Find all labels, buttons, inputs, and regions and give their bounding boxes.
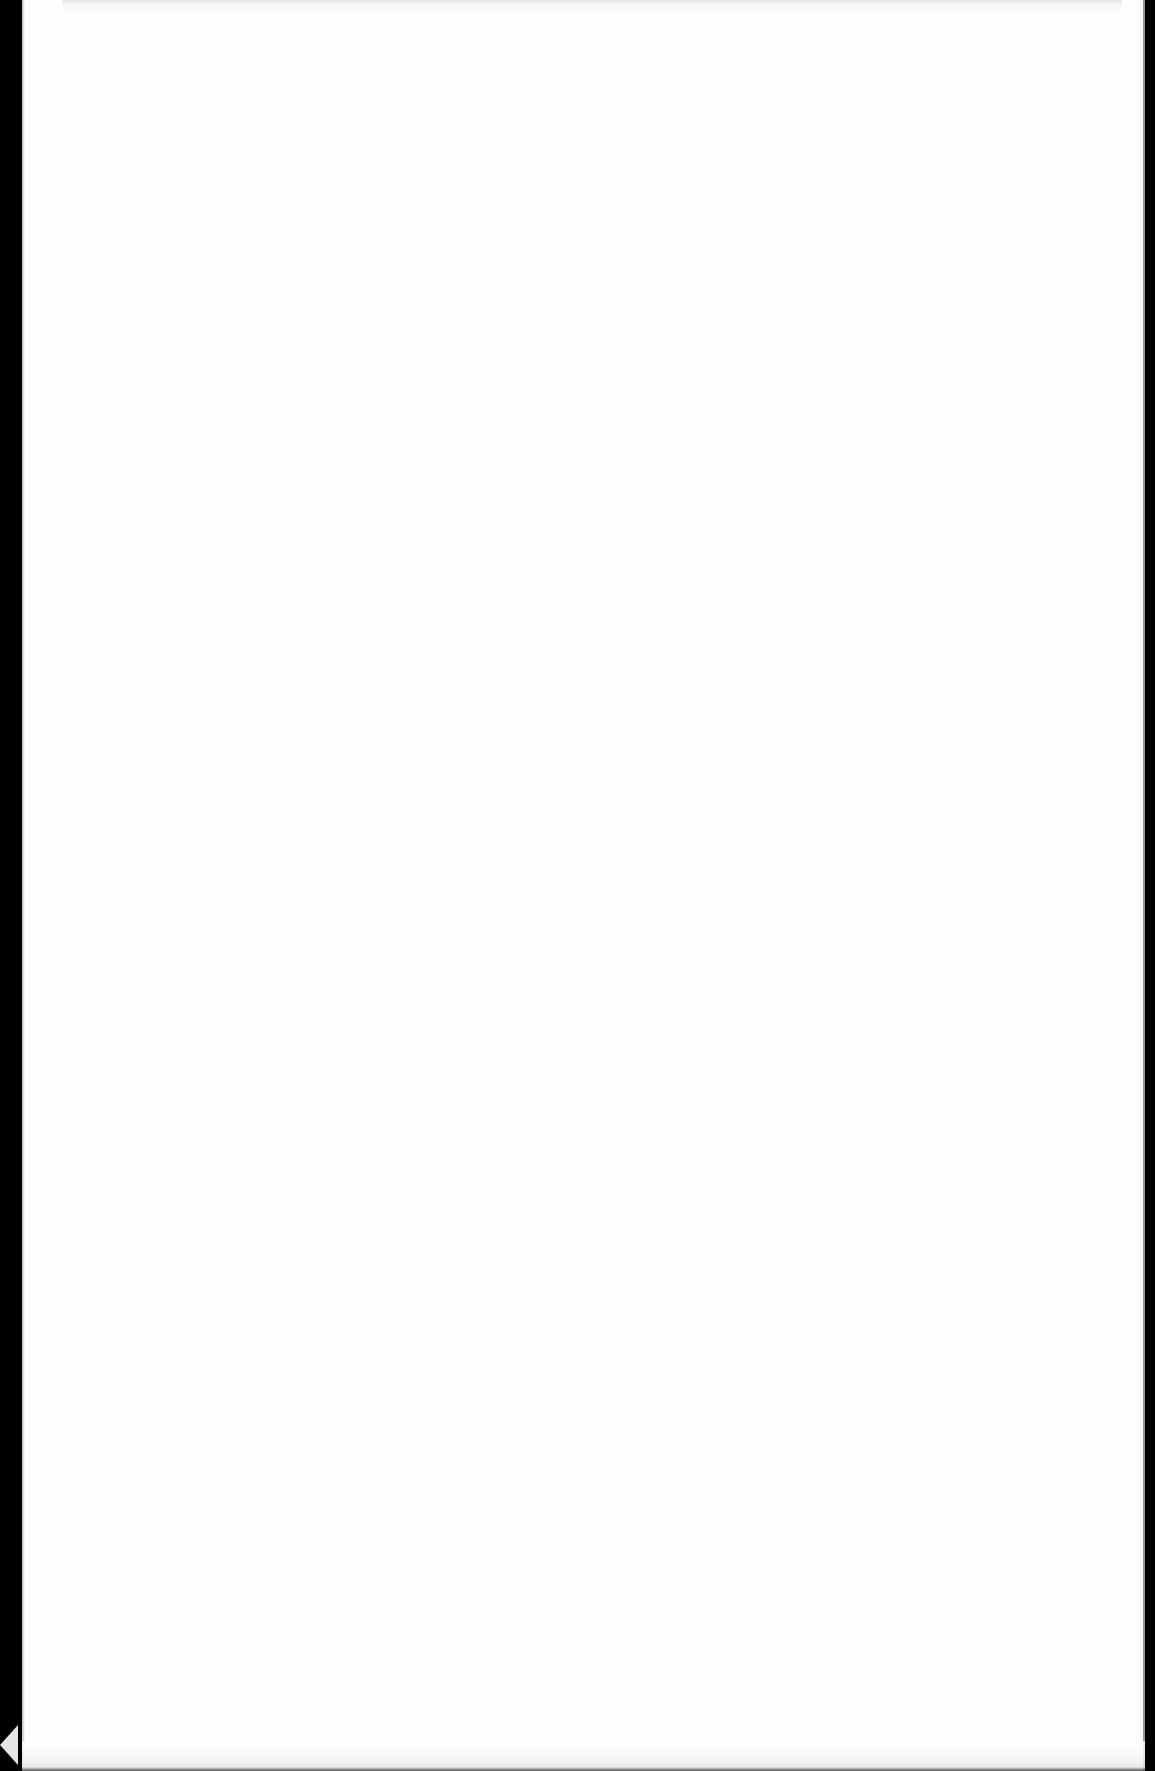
bleed-through-text-bottom [22, 1741, 1145, 1771]
blank-scanned-page [22, 0, 1145, 1771]
bleed-through-text-top [62, 0, 1122, 14]
page-corner-fold-icon [0, 1725, 18, 1765]
page-left-edge [22, 0, 25, 1771]
page-right-edge [1143, 0, 1145, 1771]
